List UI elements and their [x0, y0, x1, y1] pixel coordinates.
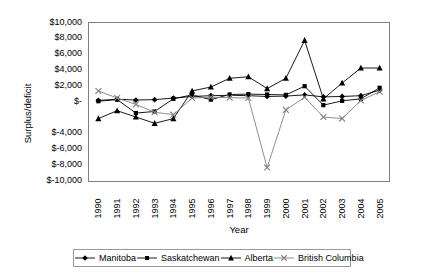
y-axis-tick-label: $-8,000: [26, 160, 82, 169]
series-canvas: [89, 23, 389, 181]
x-axis-tick-label: 2002: [319, 189, 328, 229]
legend-label: Alberta: [245, 254, 274, 263]
legend-marker-square-icon: [136, 253, 158, 263]
legend-label: British Columbia: [298, 254, 364, 263]
legend-marker-triangle-icon: [220, 253, 242, 263]
x-axis-title: Year: [88, 224, 390, 235]
legend-label: Manitoba: [99, 254, 136, 263]
legend-item-saskatchewan[interactable]: Saskatchewan: [136, 253, 220, 263]
x-axis-tick-label: 1994: [169, 189, 178, 229]
x-axis-tick-label: 1990: [94, 189, 103, 229]
y-axis-tick-label: $-6,000: [26, 144, 82, 153]
x-axis-tick-label: 1999: [263, 189, 272, 229]
x-axis-tick-label: 1998: [244, 189, 253, 229]
x-axis-tick-label: 2001: [300, 189, 309, 229]
x-axis-tick-label: 1992: [131, 189, 140, 229]
x-axis-tick-label: 2000: [281, 189, 290, 229]
x-axis-tick-label: 2004: [356, 189, 365, 229]
legend-marker-cross-icon: [273, 253, 295, 263]
x-axis-tick-label: 1997: [225, 189, 234, 229]
y-axis-tick-label: $8,000: [26, 33, 82, 42]
y-axis-tick-label: $10,000: [26, 18, 82, 27]
series-manitoba: [95, 87, 382, 103]
y-axis-tick-label: $-4,000: [26, 128, 82, 137]
y-axis-tick-label: $6,000: [26, 49, 82, 58]
x-axis-tick-label: 1995: [188, 189, 197, 229]
chart-legend: ManitobaSaskatchewanAlbertaBritish Colum…: [73, 249, 351, 267]
x-axis-tick-label: 2005: [375, 189, 384, 229]
y-axis-tick-label: $2,000: [26, 81, 82, 90]
x-axis-tick-label: 1993: [150, 189, 159, 229]
x-axis-tick-label: 2003: [338, 189, 347, 229]
x-axis-tick-labels: 1990199119921993199419951996199719981999…: [88, 184, 390, 226]
x-axis-tick-label: 1996: [206, 189, 215, 229]
x-axis-tick-label: 1991: [113, 189, 122, 229]
legend-item-manitoba[interactable]: Manitoba: [74, 253, 136, 263]
legend-item-british-columbia[interactable]: British Columbia: [273, 253, 364, 263]
legend-label: Saskatchewan: [161, 254, 220, 263]
legend-item-alberta[interactable]: Alberta: [220, 253, 274, 263]
chart-figure: Surplus/deficit $10,000$8,000$6,000$4,00…: [0, 0, 424, 276]
y-axis-tick-label: $4,000: [26, 65, 82, 74]
y-axis-tick-label: $-: [26, 97, 82, 106]
y-axis-tick-label: $-10,000: [26, 176, 82, 185]
plot-area: [88, 22, 390, 182]
legend-marker-diamond-icon: [74, 253, 96, 263]
y-axis-tick-labels: $10,000$8,000$6,000$4,000$2,000$-$-4,000…: [26, 0, 82, 276]
